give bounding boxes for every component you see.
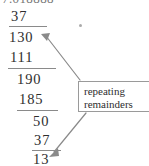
clipped-dividend-row: 7.018888 [2,0,54,3]
scan-speck-artifact [79,24,82,27]
division-row-111: 111 [10,50,33,65]
division-row-37-bottom: 37 [34,133,50,148]
rule-under-111 [8,68,56,69]
repeating-remainders-callout: repeating remainders [78,81,149,112]
division-row-185: 185 [19,92,43,107]
callout-line-2: remainders [84,98,147,111]
arrow-to-130 [41,33,80,80]
division-row-37-top: 37 [11,9,27,24]
rule-under-37-top [9,26,47,27]
division-row-13: 13 [33,152,49,166]
division-row-50: 50 [33,114,49,129]
long-division-figure: 7.018888 37 130 111 190 185 50 37 13 rep… [0,0,149,166]
rule-under-185 [17,110,58,111]
division-row-130: 130 [9,30,33,45]
callout-line-1: repeating [84,85,147,98]
division-row-190: 190 [17,72,41,87]
